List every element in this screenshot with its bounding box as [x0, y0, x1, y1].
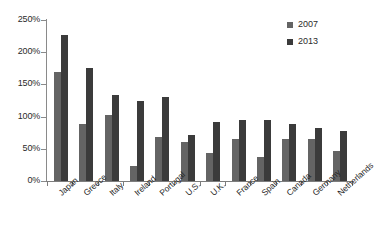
bar-uk-2007 [206, 153, 213, 181]
bar-ireland-2013 [137, 101, 144, 181]
bar-france-2013 [239, 120, 246, 181]
bar-us-2013 [188, 135, 195, 181]
bar-uk-2013 [213, 122, 220, 181]
bar-japan-2007 [54, 72, 61, 181]
legend-label-2007: 2007 [298, 20, 318, 29]
bar-france-2007 [232, 139, 239, 181]
legend-swatch-2013 [287, 39, 293, 45]
bar-group [232, 20, 246, 181]
bar-group [257, 20, 271, 181]
legend-swatch-2007 [287, 22, 293, 28]
bar-group [105, 20, 119, 181]
bar-canada-2013 [289, 124, 296, 181]
bar-group [206, 20, 220, 181]
bar-group [181, 20, 195, 181]
bar-greece-2007 [79, 124, 86, 181]
bar-italy-2007 [105, 115, 112, 181]
bar-greece-2013 [86, 68, 93, 181]
y-tick-label: 100% [2, 112, 40, 121]
bar-group [54, 20, 68, 181]
bar-group [155, 20, 169, 181]
bar-italy-2013 [112, 95, 119, 181]
y-tick-label: 200% [2, 47, 40, 56]
bar-ireland-2007 [130, 166, 137, 181]
bar-group [130, 20, 144, 181]
bar-portugal-2013 [162, 97, 169, 181]
chart-legend: 2007 2013 [287, 18, 318, 52]
bar-germany-2013 [315, 128, 322, 181]
bar-group [79, 20, 93, 181]
y-tick-label: 150% [2, 79, 40, 88]
bar-japan-2013 [61, 35, 68, 181]
legend-item-2007: 2007 [287, 18, 318, 31]
bar-spain-2013 [264, 120, 271, 181]
x-axis-label: Italy [108, 181, 125, 198]
legend-item-2013: 2013 [287, 35, 318, 48]
bar-portugal-2007 [155, 137, 162, 181]
legend-label-2013: 2013 [298, 37, 318, 46]
x-axis-label: U.S. [184, 180, 202, 197]
bar-canada-2007 [282, 139, 289, 181]
bar-group [333, 20, 347, 181]
y-tick-label: 50% [2, 144, 40, 153]
y-tick-label: 0% [2, 176, 40, 185]
y-tick-label: 250% [2, 15, 40, 24]
x-tick-mark [47, 181, 48, 186]
x-axis-labels: JapanGreeceItalyIrelandPortugalU.S.U.K.F… [0, 189, 359, 244]
